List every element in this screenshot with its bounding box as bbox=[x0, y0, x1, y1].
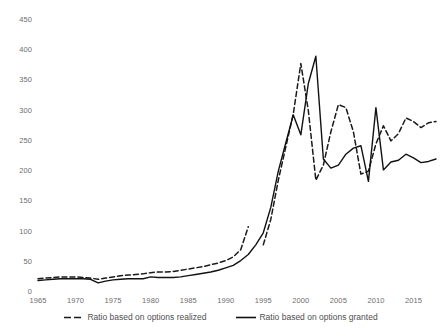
chart-plot-area bbox=[0, 0, 442, 336]
y-tick-450: 450 bbox=[6, 15, 32, 24]
series-line-realized-seg1 bbox=[263, 64, 436, 245]
x-tick-1980: 1980 bbox=[134, 296, 168, 305]
legend-label-realized: Ratio based on options realized bbox=[87, 312, 206, 322]
series-line-realized bbox=[38, 227, 248, 280]
y-tick-0: 0 bbox=[6, 287, 32, 296]
chart-container: 450400350300250200150100500 196519701975… bbox=[0, 0, 442, 336]
y-tick-150: 150 bbox=[6, 196, 32, 205]
legend-dashed-line-icon bbox=[64, 313, 84, 322]
y-tick-100: 100 bbox=[6, 227, 32, 236]
x-tick-1965: 1965 bbox=[21, 296, 55, 305]
legend-solid-line-icon bbox=[236, 313, 256, 322]
x-tick-1970: 1970 bbox=[59, 296, 93, 305]
x-tick-1985: 1985 bbox=[171, 296, 205, 305]
x-tick-1995: 1995 bbox=[246, 296, 280, 305]
x-tick-2000: 2000 bbox=[284, 296, 318, 305]
y-tick-300: 300 bbox=[6, 106, 32, 115]
y-tick-200: 200 bbox=[6, 166, 32, 175]
y-tick-250: 250 bbox=[6, 136, 32, 145]
legend-label-granted: Ratio based on options granted bbox=[259, 312, 377, 322]
y-tick-400: 400 bbox=[6, 45, 32, 54]
x-tick-2015: 2015 bbox=[396, 296, 430, 305]
x-tick-2010: 2010 bbox=[359, 296, 393, 305]
legend-item-realized[interactable]: Ratio based on options realized bbox=[64, 312, 206, 322]
legend-item-granted[interactable]: Ratio based on options granted bbox=[236, 312, 377, 322]
chart-legend: Ratio based on options realized Ratio ba… bbox=[0, 309, 442, 325]
x-tick-1990: 1990 bbox=[209, 296, 243, 305]
y-tick-350: 350 bbox=[6, 75, 32, 84]
x-tick-2005: 2005 bbox=[321, 296, 355, 305]
y-tick-50: 50 bbox=[6, 257, 32, 266]
series-line-granted bbox=[38, 56, 436, 283]
x-tick-1975: 1975 bbox=[96, 296, 130, 305]
